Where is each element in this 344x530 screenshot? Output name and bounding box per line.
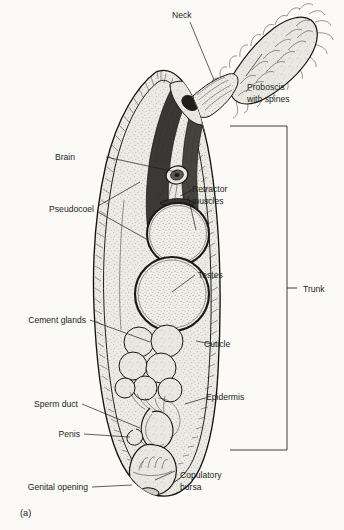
label-proboscis-line1: Proboscis xyxy=(247,82,285,92)
label-pseudocoel: Pseudocoel xyxy=(49,204,94,214)
label-copulatory-line2: bursa xyxy=(180,482,202,492)
label-penis: Penis xyxy=(59,429,81,439)
label-proboscis-line2: with spines xyxy=(246,94,290,104)
testis-posterior xyxy=(135,257,209,331)
label-trunk: Trunk xyxy=(303,284,325,294)
label-retractor-line2: muscles xyxy=(192,196,224,206)
label-testes: Testes xyxy=(198,270,223,280)
label-retractor-line1: Retractor xyxy=(192,184,227,194)
brain-nucleus xyxy=(174,173,179,177)
figure-root: Neck Proboscis with spines Brain Retract… xyxy=(0,0,344,530)
cement-gland xyxy=(151,325,183,357)
cement-gland xyxy=(133,376,157,400)
label-copulatory-line1: Copulatory xyxy=(180,470,222,480)
cement-gland xyxy=(115,378,135,398)
testis-anterior xyxy=(147,203,209,265)
figure-caption: (a) xyxy=(20,508,31,518)
label-brain: Brain xyxy=(55,152,75,162)
label-neck: Neck xyxy=(172,10,192,20)
label-cuticle: Cuticle xyxy=(204,339,230,349)
label-cement-glands: Cement glands xyxy=(28,315,86,325)
cement-gland-cluster xyxy=(115,325,183,402)
label-sperm-duct: Sperm duct xyxy=(34,399,79,409)
label-epidermis: Epidermis xyxy=(206,392,244,402)
label-genital-opening: Genital opening xyxy=(28,482,88,492)
